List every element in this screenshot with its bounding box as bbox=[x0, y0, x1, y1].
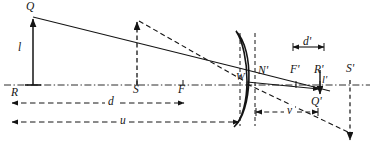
label-distance-d: d bbox=[105, 96, 117, 108]
label-axis-point-S: S bbox=[133, 84, 139, 96]
label-image-height-l-prime: l' bbox=[322, 75, 327, 86]
label-image-point-Q-prime: Q' bbox=[311, 96, 322, 108]
lower-dashed-ray bbox=[247, 84, 350, 133]
upper-dashed-ray bbox=[139, 21, 246, 82]
label-nodal-point-N-prime: N' bbox=[258, 65, 268, 77]
label-image-distance-v: v bbox=[284, 105, 295, 117]
label-focal-point-F-prime: F' bbox=[290, 64, 299, 76]
label-focal-point-F: F bbox=[178, 84, 185, 96]
label-object-height-l: l bbox=[18, 42, 21, 54]
label-object-point-Q: Q bbox=[26, 1, 34, 13]
label-object-distance-u: u bbox=[117, 115, 129, 127]
optics-diagram-canvas: Q l R S F d u W N' d' F' R' S' l' Q' v bbox=[0, 0, 374, 149]
label-axis-point-R: R bbox=[11, 87, 18, 99]
label-principal-point-W: W bbox=[236, 72, 245, 83]
label-distance-d-prime: d' bbox=[303, 36, 311, 48]
label-axis-point-S-prime: S' bbox=[346, 63, 354, 75]
chief-ray bbox=[33, 17, 243, 69]
